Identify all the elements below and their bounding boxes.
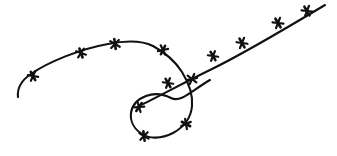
barbed-wire-illustration [0,0,337,156]
canvas-background [0,0,337,156]
drawing-canvas [0,0,337,156]
